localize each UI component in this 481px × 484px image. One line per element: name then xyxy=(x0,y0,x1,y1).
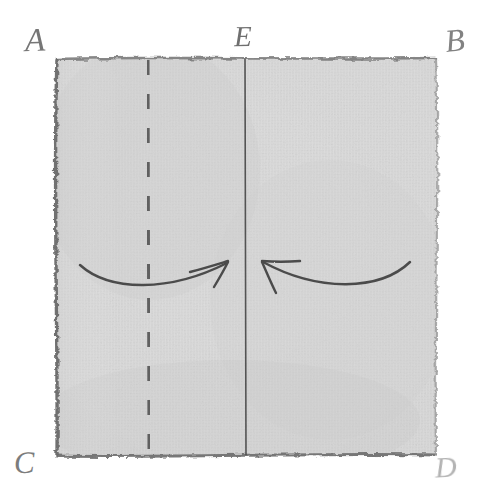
label-d: D xyxy=(434,451,457,482)
center-fold-line xyxy=(245,59,246,455)
label-b: B xyxy=(443,23,466,57)
label-c: C xyxy=(13,447,35,479)
right-arrowhead-upper xyxy=(262,261,300,262)
diagram-canvas xyxy=(0,0,481,484)
folding-diagram: Hand-drawn folding diagram of a square c… xyxy=(0,0,481,484)
label-e: E xyxy=(234,22,252,51)
label-a: A xyxy=(24,24,45,58)
